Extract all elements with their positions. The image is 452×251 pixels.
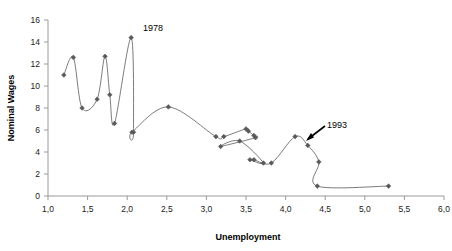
annotation-label-1993: 1993	[327, 120, 347, 130]
y-tick-label: 14	[31, 37, 41, 47]
y-axis-title: Nominal Wages	[6, 75, 16, 142]
y-tick-label: 0	[35, 191, 40, 201]
x-tick-label: 1,5	[82, 204, 94, 214]
annotation-label-1978: 1978	[143, 23, 163, 33]
x-tick-label: 1,0	[42, 204, 54, 214]
y-tick-label: 16	[31, 15, 41, 25]
y-tick-label: 6	[35, 125, 40, 135]
y-tick-label: 12	[31, 59, 41, 69]
x-tick-label: 3,5	[240, 204, 252, 214]
x-tick-label: 4,0	[280, 204, 292, 214]
chart-background	[0, 0, 452, 251]
x-axis-title: Unemployment	[215, 232, 280, 242]
phillips-curve-chart: 0246810121416 1,01,52,02,53,03,54,04,55,…	[0, 0, 452, 251]
y-tick-label: 8	[35, 103, 40, 113]
y-tick-label: 10	[31, 81, 41, 91]
y-tick-label: 2	[35, 169, 40, 179]
y-tick-label: 4	[35, 147, 40, 157]
x-tick-label: 4,5	[319, 204, 331, 214]
chart-canvas: 0246810121416 1,01,52,02,53,03,54,04,55,…	[0, 0, 452, 251]
x-tick-label: 5,5	[398, 204, 410, 214]
x-tick-label: 2,5	[161, 204, 173, 214]
x-tick-label: 2,0	[121, 204, 133, 214]
x-tick-label: 3,0	[200, 204, 212, 214]
x-tick-label: 6,0	[438, 204, 450, 214]
x-tick-label: 5,0	[359, 204, 371, 214]
